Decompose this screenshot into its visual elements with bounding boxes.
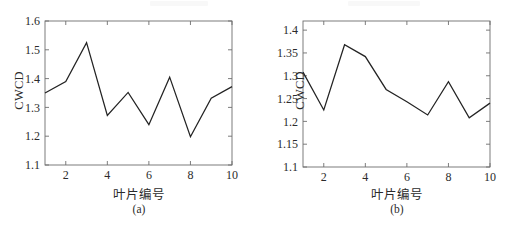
axis-frame	[303, 21, 490, 167]
x-axis-label-a: 叶片编号	[45, 184, 233, 203]
y-tick-label: 1.4	[25, 72, 40, 86]
y-tick-label: 1.6	[25, 14, 40, 28]
y-tick-label: 1.35	[277, 46, 298, 60]
x-tick-label: 2	[63, 168, 69, 182]
y-axis-label-a: CWCD	[12, 61, 27, 121]
panel-b: 1.11.151.21.251.31.351.4246810 CWCD 叶片编号…	[257, 0, 514, 228]
data-series-line	[45, 43, 232, 137]
y-tick-label: 1.15	[277, 137, 298, 151]
data-series-line	[303, 45, 490, 118]
y-tick-label: 1.4	[283, 23, 298, 37]
axis-frame	[45, 21, 232, 165]
panel-caption-a: (a)	[45, 203, 233, 215]
x-axis-label-b: 叶片编号	[303, 184, 491, 203]
y-tick-label: 1.1	[283, 160, 298, 174]
x-tick-label: 8	[187, 168, 193, 182]
y-tick-label: 1.1	[25, 158, 40, 172]
x-tick-label: 6	[146, 168, 152, 182]
panel-caption-b: (b)	[303, 203, 491, 215]
x-tick-label: 2	[321, 170, 327, 184]
x-tick-label: 8	[445, 170, 451, 184]
y-axis-label-b: CWCD	[293, 61, 308, 121]
figure-container: 1.11.21.31.41.51.6246810 CWCD 叶片编号 (a) 1…	[0, 0, 515, 228]
panel-a: 1.11.21.31.41.51.6246810 CWCD 叶片编号 (a)	[0, 0, 257, 228]
y-tick-label: 1.5	[25, 43, 40, 57]
x-tick-label: 6	[404, 170, 410, 184]
y-tick-label: 1.2	[25, 129, 40, 143]
x-tick-label: 10	[484, 170, 496, 184]
x-tick-label: 4	[104, 168, 110, 182]
y-tick-label: 1.3	[25, 101, 40, 115]
x-tick-label: 4	[362, 170, 368, 184]
x-tick-label: 10	[226, 168, 238, 182]
